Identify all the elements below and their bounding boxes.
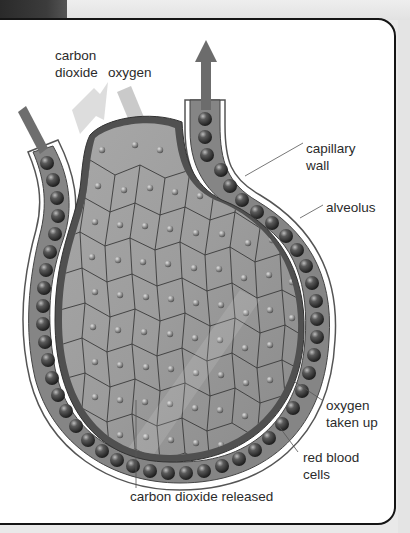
label-red-blood-cells-line2: cells [303, 466, 359, 483]
label-alveolus: alveolus [326, 199, 376, 216]
label-red-blood-cells: red blood cells [303, 449, 359, 483]
label-capillary-wall: capillary wall [306, 140, 356, 174]
label-capillary-wall-line1: capillary [306, 140, 356, 157]
label-carbon-dioxide-released: carbon dioxide released [130, 488, 273, 505]
label-oxygen-taken-up-line2: taken up [326, 414, 378, 431]
label-oxygen-top: oxygen [108, 64, 152, 81]
label-carbon-dioxide-line1: carbon [55, 47, 98, 64]
label-oxygen-taken-up: oxygen taken up [326, 397, 378, 431]
label-oxygen-taken-up-line1: oxygen [326, 397, 378, 414]
label-carbon-dioxide-line2: dioxide [55, 64, 98, 81]
blood-in-arrow [18, 106, 48, 154]
label-capillary-wall-line2: wall [306, 157, 356, 174]
label-red-blood-cells-line1: red blood [303, 449, 359, 466]
label-carbon-dioxide: carbon dioxide [55, 47, 98, 81]
